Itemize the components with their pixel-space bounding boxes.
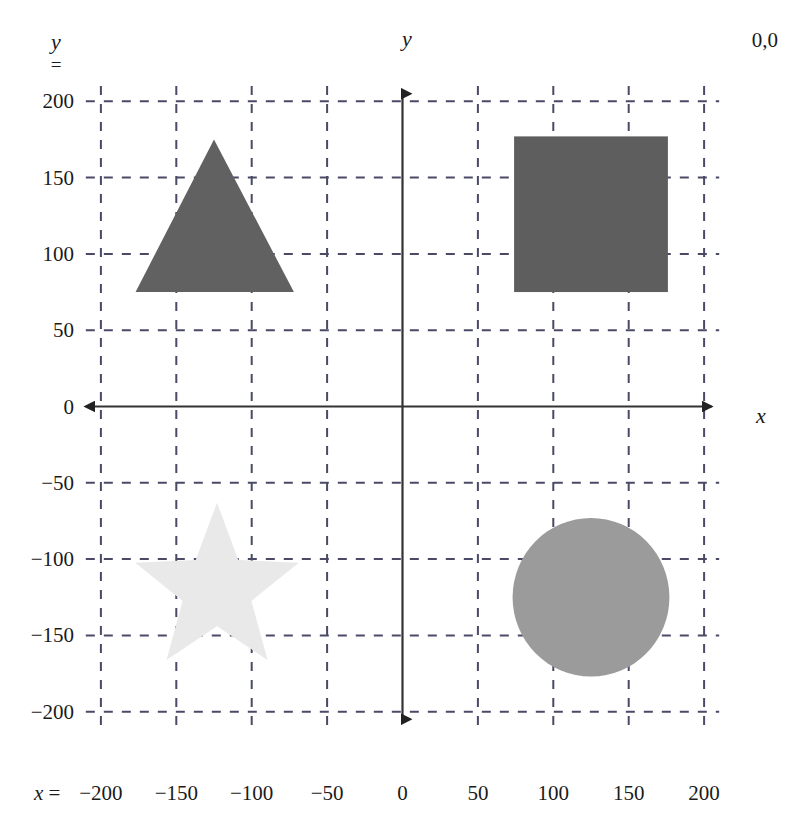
x-tick-label--150: −150 xyxy=(155,783,198,804)
x-tick-label-200: 200 xyxy=(688,783,720,804)
shape-square xyxy=(514,136,668,292)
x-tick-label-150: 150 xyxy=(613,783,645,804)
y-tick-label--150: −150 xyxy=(0,625,74,646)
y-tick-label-100: 100 xyxy=(0,243,74,264)
shape-triangle xyxy=(136,139,294,292)
y-tick-label-0: 0 xyxy=(0,396,74,417)
x-tick-label-0: 0 xyxy=(397,783,408,804)
x-axis-prefix-label: x = xyxy=(34,783,60,804)
plot-canvas xyxy=(0,0,796,828)
y-tick-label--50: −50 xyxy=(0,472,74,493)
x-tick-label--100: −100 xyxy=(230,783,273,804)
y-tick-label-150: 150 xyxy=(0,167,74,188)
y-tick-label-50: 50 xyxy=(0,320,74,341)
y-axis-prefix-label: y = xyxy=(36,30,76,75)
coordinate-plane-figure: y = 0,0 y x x = 200150100500−50−100−150−… xyxy=(0,0,796,828)
x-tick-label--50: −50 xyxy=(311,783,344,804)
origin-annotation: 0,0 xyxy=(752,30,778,51)
x-tick-label-50: 50 xyxy=(467,783,488,804)
y-axis-prefix-variable: y xyxy=(36,30,76,53)
x-axis-name-label: x xyxy=(756,405,766,427)
y-axis-prefix-equals: = xyxy=(36,55,76,75)
y-tick-label--100: −100 xyxy=(0,549,74,570)
shape-circle xyxy=(513,518,670,677)
x-tick-label-100: 100 xyxy=(538,783,570,804)
y-tick-label-200: 200 xyxy=(0,91,74,112)
x-tick-label--200: −200 xyxy=(79,783,122,804)
y-tick-label--200: −200 xyxy=(0,701,74,722)
y-axis-name-label: y xyxy=(402,28,412,50)
